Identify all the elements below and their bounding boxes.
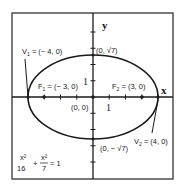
ellipse-diagram: y x 1 1 V1 = (− 4, 0) F1 = (− 3, 0) F2 =…	[0, 0, 184, 188]
covertex-top-point	[92, 54, 95, 57]
v2-leader-line	[152, 100, 158, 133]
eq-rhs: = 1	[50, 159, 61, 168]
eq-y-numerator: x²	[41, 153, 48, 162]
vertex-v2-point	[157, 96, 160, 99]
x-axis-label: x	[161, 84, 167, 96]
eq-x-numerator: x²	[20, 153, 27, 162]
v2-label: V2 = (4, 0)	[134, 137, 168, 147]
ellipse-equation: x² 16 + x² 7 = 1	[17, 153, 61, 173]
top-covertex-label: (0, √7)	[96, 46, 118, 55]
eq-y-denominator: 7	[42, 164, 46, 173]
y-unit-label: 1	[83, 76, 88, 87]
covertex-bottom-point	[92, 138, 95, 141]
origin-point	[91, 95, 95, 99]
eq-x-denominator: 16	[17, 164, 25, 173]
y-axis-label: y	[102, 19, 108, 31]
v1-leader-line	[25, 59, 28, 97]
focus-f2-point	[140, 95, 144, 99]
x-unit-label: 1	[106, 102, 111, 113]
v1-label: V1 = (− 4, 0)	[22, 47, 63, 57]
f2-label: F2 = (3, 0)	[112, 82, 146, 92]
origin-label: (0, 0)	[71, 103, 89, 112]
eq-plus: +	[33, 159, 38, 168]
f1-label: F1 = (− 3, 0)	[38, 82, 78, 92]
focus-f1-point	[42, 95, 46, 99]
bottom-covertex-label: (0, − √7)	[100, 144, 129, 153]
